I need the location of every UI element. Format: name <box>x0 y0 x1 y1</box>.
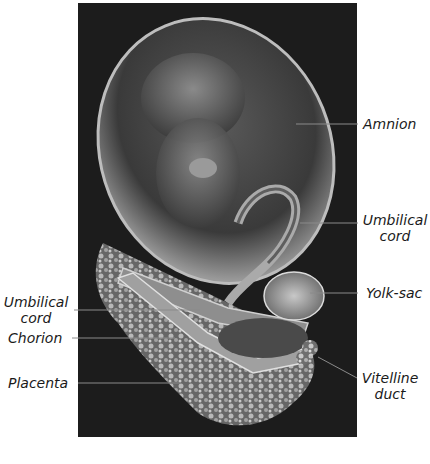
label-line: Umbilical <box>359 212 430 228</box>
label-yolk-sac: Yolk-sac <box>366 285 422 301</box>
label-umbilical-cord-left: Umbilical cord <box>0 294 72 326</box>
label-line: Umbilical <box>0 294 72 310</box>
label-chorion: Chorion <box>8 330 62 346</box>
label-line: cord <box>0 310 72 326</box>
label-umbilical-cord-right: Umbilical cord <box>359 212 430 244</box>
label-line: Vitelline <box>360 370 420 386</box>
label-line: duct <box>360 386 420 402</box>
label-vitelline-duct: Vitelline duct <box>360 370 420 402</box>
leader-vitelline-duct <box>318 357 357 378</box>
label-amnion: Amnion <box>363 116 416 132</box>
label-placenta: Placenta <box>8 375 68 391</box>
label-line: cord <box>359 228 430 244</box>
